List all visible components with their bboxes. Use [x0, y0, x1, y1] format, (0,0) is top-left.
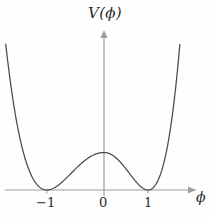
y-axis-label: V(ϕ) — [88, 6, 122, 21]
x-tick-label-minus-one: −1 — [36, 196, 55, 209]
plot-canvas — [0, 0, 213, 218]
x-axis-arrowhead — [188, 186, 196, 193]
double-well-potential-figure: V(ϕ) ϕ −1 0 1 — [0, 0, 213, 218]
x-tick-label-zero: 0 — [99, 196, 107, 209]
potential-curve — [6, 44, 180, 190]
x-tick-label-one: 1 — [144, 196, 152, 209]
y-axis-arrowhead — [100, 30, 107, 38]
x-axis-label: ϕ — [196, 190, 206, 204]
